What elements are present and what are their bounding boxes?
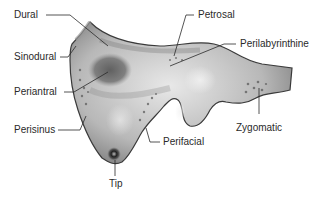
- label-petrosal: Petrosal: [198, 10, 235, 20]
- label-sinodural: Sinodural: [14, 52, 56, 62]
- label-periantral: Periantral: [14, 87, 57, 97]
- label-perisinus: Perisinus: [14, 125, 55, 135]
- tip-region: [107, 147, 121, 161]
- temporal-bone-illustration: [0, 0, 316, 201]
- label-dural: Dural: [14, 10, 38, 20]
- diagram-canvas: Dural Sinodural Periantral Perisinus Tip…: [0, 0, 316, 201]
- label-perilabyrinthine: Perilabyrinthine: [240, 39, 309, 49]
- label-zygomatic: Zygomatic: [236, 123, 282, 133]
- label-tip: Tip: [109, 179, 123, 189]
- label-perifacial: Perifacial: [163, 137, 204, 147]
